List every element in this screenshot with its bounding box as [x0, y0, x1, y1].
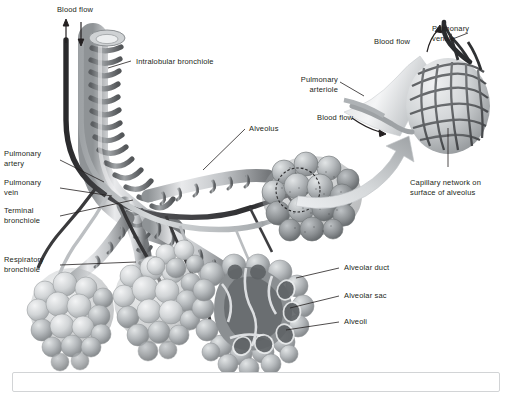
label-alveolar-duct: Alveolar duct	[344, 263, 389, 273]
label-respiratory-bronchiole: Respiratory bronchiole	[4, 255, 44, 274]
label-alveolar-sac: Alveolar sac	[344, 291, 387, 301]
label-capillary-network: Capillary network on surface of alveolus	[410, 178, 481, 197]
caption-frame	[12, 372, 500, 392]
label-alveoli: Alveoli	[344, 317, 367, 327]
label-blood-flow-inset-lower: Blood flow	[317, 113, 353, 123]
label-pulmonary-artery: Pulmonary artery	[4, 149, 41, 168]
pulmonary-lobule-illustration	[0, 0, 512, 394]
label-pulmonary-arteriole: Pulmonary arteriole	[262, 75, 338, 94]
alveolar-cluster-left-outer	[27, 268, 114, 371]
label-blood-flow-inset-upper: Blood flow	[374, 37, 410, 47]
label-blood-flow-top: Blood flow	[44, 5, 106, 15]
label-alveolus: Alveolus	[249, 124, 279, 134]
alveolar-sac-cutaway	[192, 254, 314, 378]
label-terminal-bronchiole: Terminal bronchiole	[4, 206, 40, 225]
label-pulmonary-venule: Pulmonary venule	[432, 24, 469, 43]
label-pulmonary-vein: Pulmonary vein	[4, 178, 41, 197]
label-intralobular-bronchiole: Intralobular bronchiole	[136, 57, 214, 67]
